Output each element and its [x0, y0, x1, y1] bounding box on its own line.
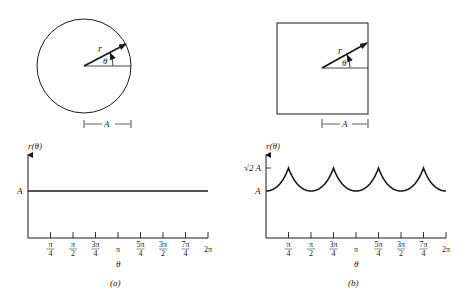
x-tick-label: 7π	[181, 240, 189, 249]
y-axis-label: r(θ)	[266, 141, 280, 151]
svg-text:4: 4	[184, 249, 188, 258]
x-tick-label: 3π	[397, 240, 405, 249]
svg-text:2: 2	[399, 249, 403, 258]
x-axis-label: θ	[116, 259, 121, 269]
x-tick-label: 5π	[136, 240, 144, 249]
data-curve-square	[266, 168, 446, 191]
dimension-a-marker: A	[84, 119, 131, 129]
x-tick-label: 3π	[159, 240, 167, 249]
angle-arc-icon	[347, 55, 350, 68]
x-tick-label: 2π	[442, 245, 450, 254]
x-tick-label: π	[116, 245, 120, 254]
x-ticks: π4π23π4π5π43π27π42π	[285, 232, 451, 258]
figure-canvas: r θ A r θ A r(θ) A π4π23π4π5	[0, 0, 465, 302]
x-tick-label: π	[71, 240, 75, 249]
square-diagram: r θ A	[277, 23, 368, 129]
x-tick-label: π	[48, 240, 52, 249]
svg-text:2: 2	[161, 249, 165, 258]
svg-text:4: 4	[49, 249, 53, 258]
plot-a: r(θ) A π4π23π4π5π43π27π42π θ (a)	[16, 141, 212, 288]
y-tick-label-sqrt2a: √2 A	[244, 163, 262, 173]
svg-text:4: 4	[94, 249, 98, 258]
dimension-label: A	[103, 119, 110, 129]
svg-text:4: 4	[139, 249, 143, 258]
angle-label: θ	[103, 56, 108, 66]
dimension-label: A	[341, 119, 348, 129]
plot-b: r(θ) A √2 A π4π23π4π5π43π27π42π θ (b)	[244, 141, 450, 288]
caption-a: (a)	[110, 278, 121, 288]
caption-b: (b)	[348, 278, 359, 288]
x-tick-label: 5π	[374, 240, 382, 249]
svg-text:4: 4	[422, 249, 426, 258]
svg-text:4: 4	[377, 249, 381, 258]
x-tick-label: π	[354, 245, 358, 254]
circle-diagram: r θ A	[37, 19, 131, 129]
x-tick-label: 3π	[329, 240, 337, 249]
angle-arc-icon	[110, 53, 113, 66]
svg-text:2: 2	[71, 249, 75, 258]
x-ticks: π4π23π4π5π43π27π42π	[47, 232, 213, 258]
x-tick-label: π	[286, 240, 290, 249]
x-tick-label: 3π	[91, 240, 99, 249]
svg-text:4: 4	[332, 249, 336, 258]
y-tick-label-a: A	[16, 186, 23, 196]
dimension-a-marker: A	[322, 119, 368, 129]
x-tick-label: 2π	[204, 245, 212, 254]
y-tick-label-a: A	[254, 186, 261, 196]
angle-label: θ	[342, 58, 347, 68]
y-axis-label: r(θ)	[28, 141, 42, 151]
radius-label: r	[98, 43, 102, 54]
x-tick-label: 7π	[419, 240, 427, 249]
radius-label: r	[338, 45, 342, 56]
svg-text:4: 4	[287, 249, 291, 258]
x-axis-label: θ	[354, 259, 359, 269]
x-tick-label: π	[309, 240, 313, 249]
svg-text:2: 2	[309, 249, 313, 258]
